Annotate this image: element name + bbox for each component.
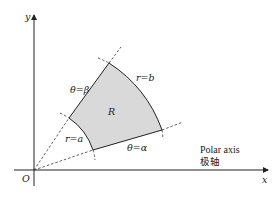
inner-arc-label: r=a bbox=[65, 133, 84, 144]
region-label: R bbox=[107, 106, 115, 117]
outer-arc-dashed-ext bbox=[98, 58, 109, 63]
polar-axis-label-en: Polar axis bbox=[200, 144, 240, 155]
polar-region-diagram: y x O R r=b r=a θ=β θ=α Polar axis 极轴 bbox=[0, 0, 280, 197]
inner-arc-dashed-ext2 bbox=[93, 150, 95, 160]
ray-beta-dashed-outer bbox=[109, 47, 121, 63]
ray-beta-dashed-inner bbox=[34, 118, 69, 170]
x-axis-label: x bbox=[262, 174, 268, 185]
outer-arc-dashed-ext2 bbox=[162, 130, 163, 139]
lower-ray-label: θ=α bbox=[127, 142, 148, 153]
upper-ray-label: θ=β bbox=[70, 84, 90, 95]
origin-label: O bbox=[22, 173, 30, 184]
inner-arc-dashed-ext bbox=[60, 113, 69, 118]
ray-alpha-dashed-inner bbox=[34, 150, 93, 170]
polar-axis-label-cn: 极轴 bbox=[200, 156, 220, 167]
y-axis-label: y bbox=[24, 11, 31, 22]
ray-alpha-dashed-outer bbox=[162, 122, 183, 130]
outer-arc-label: r=b bbox=[136, 72, 155, 83]
diagram-canvas: y x O R r=b r=a θ=β θ=α Polar axis 极轴 bbox=[0, 0, 280, 197]
